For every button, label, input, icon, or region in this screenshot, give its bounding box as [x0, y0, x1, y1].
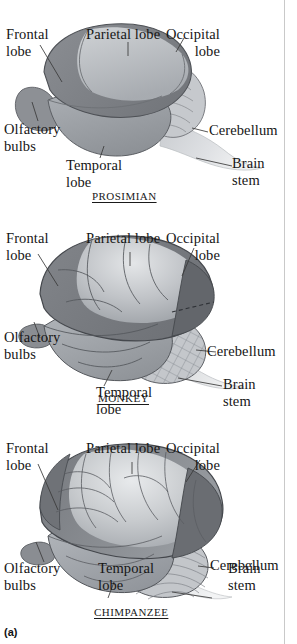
- label-parietal-lobe: Parietal lobe: [86, 26, 160, 43]
- label-occipital-lobe: Occipital lobe: [166, 440, 220, 474]
- label-frontal-lobe-line1: Frontal: [6, 26, 49, 42]
- label-olfactory-bulbs-line2: bulbs: [4, 577, 36, 593]
- label-brain-stem-line2: stem: [232, 172, 260, 188]
- label-olfactory-bulbs: Olfactory bulbs: [4, 121, 60, 155]
- label-temporal-lobe: Temporal lobe: [98, 560, 154, 594]
- label-frontal-lobe-line2: lobe: [6, 457, 31, 473]
- label-frontal-lobe-line1: Frontal: [6, 440, 49, 456]
- brain-diagram-monkey: Frontal lobe Parietal lobe Occipital lob…: [0, 210, 282, 420]
- label-olfactory-bulbs-line1: Olfactory: [4, 560, 60, 576]
- label-temporal-lobe-line1: Temporal: [66, 157, 122, 173]
- leader-cerebellum: [192, 128, 208, 132]
- label-olfactory-bulbs-line2: bulbs: [4, 138, 36, 154]
- species-label-monkey: MONKEY: [98, 392, 149, 404]
- label-parietal-lobe: Parietal lobe: [86, 230, 160, 247]
- label-temporal-lobe-line2: lobe: [66, 174, 91, 190]
- figure-caption: (a): [4, 626, 17, 638]
- label-brain-stem-line1: Brain: [228, 560, 261, 576]
- brain-diagram-prosimian: Frontal lobe Parietal lobe Occipital lob…: [0, 0, 282, 210]
- label-olfactory-bulbs-line1: Olfactory: [4, 329, 60, 345]
- label-occipital-lobe-line1: Occipital: [166, 26, 220, 42]
- label-occipital-lobe-line2: lobe: [195, 457, 220, 473]
- label-occipital-lobe: Occipital lobe: [166, 26, 220, 60]
- label-cerebellum: Cerebellum: [207, 343, 276, 360]
- label-temporal-lobe-line1: Temporal: [98, 560, 154, 576]
- species-label-prosimian: PROSIMIAN: [92, 190, 157, 202]
- label-occipital-lobe-line2: lobe: [195, 247, 220, 263]
- label-olfactory-bulbs-line2: bulbs: [4, 346, 36, 362]
- label-frontal-lobe-line2: lobe: [6, 247, 31, 263]
- label-occipital-lobe: Occipital lobe: [166, 230, 220, 264]
- label-olfactory-bulbs: Olfactory bulbs: [4, 329, 60, 363]
- label-olfactory-bulbs: Olfactory bulbs: [4, 560, 60, 594]
- label-brain-stem: Brain stem: [223, 376, 256, 410]
- label-brain-stem-line1: Brain: [232, 155, 265, 171]
- label-occipital-lobe-line1: Occipital: [166, 230, 220, 246]
- label-frontal-lobe: Frontal lobe: [6, 26, 49, 60]
- label-occipital-lobe-line2: lobe: [195, 43, 220, 59]
- label-frontal-lobe: Frontal lobe: [6, 440, 49, 474]
- label-frontal-lobe-line2: lobe: [6, 43, 31, 59]
- label-temporal-lobe: Temporal lobe: [66, 157, 122, 191]
- brain-diagram-chimpanzee: Frontal lobe Parietal lobe Occipital lob…: [0, 420, 282, 625]
- figure-page: Frontal lobe Parietal lobe Occipital lob…: [0, 0, 297, 644]
- label-brain-stem-line2: stem: [228, 577, 256, 593]
- label-occipital-lobe-line1: Occipital: [166, 440, 220, 456]
- label-temporal-lobe-line2: lobe: [98, 577, 123, 593]
- label-brain-stem: Brain stem: [232, 155, 265, 189]
- species-label-chimpanzee: CHIMPANZEE: [94, 606, 168, 618]
- label-brain-stem-line1: Brain: [223, 376, 256, 392]
- label-parietal-lobe: Parietal lobe: [86, 440, 160, 457]
- label-frontal-lobe-line1: Frontal: [6, 230, 49, 246]
- label-olfactory-bulbs-line1: Olfactory: [4, 121, 60, 137]
- label-brain-stem: Brain stem: [228, 560, 261, 594]
- page-edge-rule: [284, 0, 285, 644]
- label-frontal-lobe: Frontal lobe: [6, 230, 49, 264]
- label-cerebellum: Cerebellum: [209, 122, 278, 139]
- label-brain-stem-line2: stem: [223, 393, 251, 409]
